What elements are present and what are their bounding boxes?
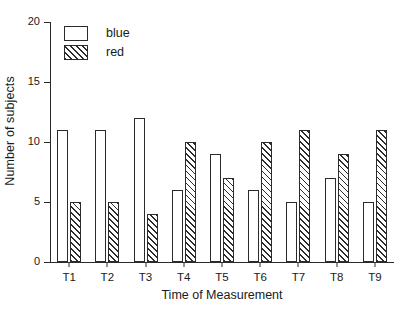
bars-t4 bbox=[165, 22, 203, 262]
y-tick-label-15: 15 bbox=[8, 76, 40, 87]
bar-group-t3: T3 bbox=[126, 22, 164, 262]
bar-t7-blue bbox=[286, 202, 297, 262]
bar-group-t6: T6 bbox=[241, 22, 279, 262]
bar-t2-blue bbox=[95, 130, 106, 262]
legend-swatch-blue bbox=[64, 26, 88, 41]
legend-item-blue: blue bbox=[64, 26, 130, 41]
x-tick-t8 bbox=[336, 262, 337, 267]
legend-swatch-red bbox=[64, 45, 88, 60]
x-tick-label-t7: T7 bbox=[279, 271, 317, 283]
x-tick-t7 bbox=[298, 262, 299, 267]
x-tick-t2 bbox=[107, 262, 108, 267]
x-tick-t9 bbox=[374, 262, 375, 267]
x-tick-label-t2: T2 bbox=[88, 271, 126, 283]
bar-t2-red bbox=[108, 202, 119, 262]
bar-t8-red bbox=[338, 154, 349, 262]
bar-t6-blue bbox=[248, 190, 259, 262]
y-tick-0 bbox=[44, 262, 50, 263]
legend-label-red: red bbox=[106, 46, 124, 59]
x-tick-label-t8: T8 bbox=[318, 271, 356, 283]
bar-group-t5: T5 bbox=[203, 22, 241, 262]
x-tick-t1 bbox=[69, 262, 70, 267]
x-tick-t5 bbox=[221, 262, 222, 267]
x-tick-t3 bbox=[145, 262, 146, 267]
x-tick-label-t1: T1 bbox=[50, 271, 88, 283]
bar-t1-blue bbox=[57, 130, 68, 262]
bars-t9 bbox=[356, 22, 394, 262]
x-axis-label: Time of Measurement bbox=[50, 288, 394, 302]
bars-t8 bbox=[318, 22, 356, 262]
x-tick-t4 bbox=[183, 262, 184, 267]
bar-t3-blue bbox=[134, 118, 145, 262]
chart-legend: blue red bbox=[64, 26, 130, 60]
x-tick-label-t9: T9 bbox=[356, 271, 394, 283]
bar-group-t7: T7 bbox=[279, 22, 317, 262]
bar-t4-blue bbox=[172, 190, 183, 262]
bar-t4-red bbox=[185, 142, 196, 262]
x-tick-label-t5: T5 bbox=[203, 271, 241, 283]
y-tick-label-0: 0 bbox=[8, 256, 40, 267]
bar-t8-blue bbox=[325, 178, 336, 262]
x-tick-label-t6: T6 bbox=[241, 271, 279, 283]
y-axis-label-container: Number of subjects bbox=[0, 0, 23, 262]
bar-group-t4: T4 bbox=[165, 22, 203, 262]
legend-item-red: red bbox=[64, 45, 130, 60]
bar-t6-red bbox=[261, 142, 272, 262]
bars-t7 bbox=[279, 22, 317, 262]
bar-t3-red bbox=[147, 214, 158, 262]
legend-label-blue: blue bbox=[106, 27, 130, 40]
bar-group-t8: T8 bbox=[318, 22, 356, 262]
y-tick-label-20: 20 bbox=[8, 16, 40, 27]
bar-t9-red bbox=[376, 130, 387, 262]
x-tick-label-t3: T3 bbox=[126, 271, 164, 283]
y-tick-label-10: 10 bbox=[8, 136, 40, 147]
bar-group-t9: T9 bbox=[356, 22, 394, 262]
y-tick-label-5: 5 bbox=[8, 196, 40, 207]
bar-t9-blue bbox=[363, 202, 374, 262]
bar-t1-red bbox=[70, 202, 81, 262]
x-tick-label-t4: T4 bbox=[165, 271, 203, 283]
x-tick-t6 bbox=[260, 262, 261, 267]
bars-t5 bbox=[203, 22, 241, 262]
bar-chart: Number of subjects 05101520 T1T2T3T4T5T6… bbox=[0, 0, 404, 312]
bars-t3 bbox=[126, 22, 164, 262]
bar-t5-red bbox=[223, 178, 234, 262]
bars-t6 bbox=[241, 22, 279, 262]
bar-t7-red bbox=[299, 130, 310, 262]
y-axis-label: Number of subjects bbox=[3, 76, 17, 185]
bar-t5-blue bbox=[210, 154, 221, 262]
